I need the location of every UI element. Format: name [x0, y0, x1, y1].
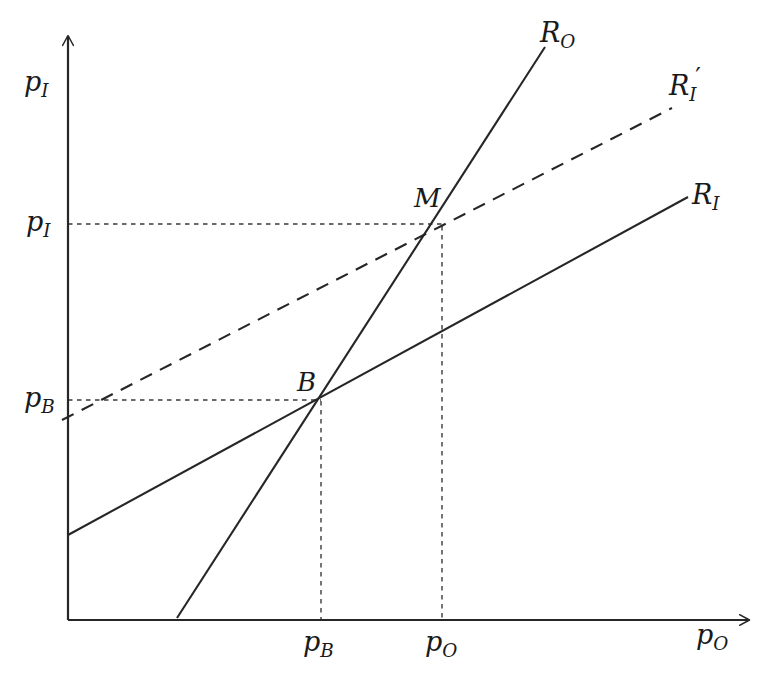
- curve-label-R-I-prime-base: R: [669, 70, 689, 101]
- x-tick-po-base: p: [425, 626, 442, 657]
- point-label-B: B: [297, 369, 316, 395]
- reaction-function-diagram: pI pO pI pB pB pO RO RI′ RI M B: [0, 0, 774, 679]
- curve-label-R-O: RO: [540, 19, 576, 46]
- curve-label-R-I-prime: RI′: [669, 72, 702, 100]
- curve-R-I-prime: [62, 108, 672, 420]
- y-tick-pb-sub: B: [41, 396, 55, 417]
- y-tick-pi-sub: I: [43, 220, 50, 241]
- x-tick-label-pb: pB: [303, 628, 334, 655]
- curve-label-R-I: RI: [692, 181, 720, 208]
- x-axis-title-sub: O: [713, 633, 728, 654]
- curve-R-I: [68, 197, 688, 535]
- x-tick-pb-sub: B: [320, 640, 334, 661]
- y-tick-label-pi: pI: [26, 208, 51, 235]
- x-axis-title-base: p: [696, 619, 713, 650]
- y-tick-pi-base: p: [26, 206, 43, 237]
- point-label-M: M: [414, 185, 441, 211]
- y-axis-title-base: p: [24, 66, 41, 97]
- curve-R-O: [177, 47, 545, 618]
- x-tick-label-po: pO: [425, 628, 458, 655]
- y-tick-label-pb: pB: [24, 384, 55, 411]
- x-tick-po-sub: O: [442, 640, 457, 661]
- curve-label-R-I-base: R: [692, 179, 712, 210]
- y-axis-title-sub: I: [41, 80, 48, 101]
- curve-label-R-O-base: R: [540, 17, 560, 48]
- y-tick-pb-base: p: [24, 382, 41, 413]
- y-axis-title: pI: [24, 68, 49, 95]
- diagram-canvas: [0, 0, 774, 679]
- curve-label-R-O-sub: O: [560, 31, 575, 52]
- x-axis-title: pO: [696, 621, 729, 648]
- curve-label-R-I-sub: I: [712, 193, 719, 214]
- curve-label-R-I-prime-mark: ′: [695, 62, 701, 91]
- x-tick-pb-base: p: [303, 626, 320, 657]
